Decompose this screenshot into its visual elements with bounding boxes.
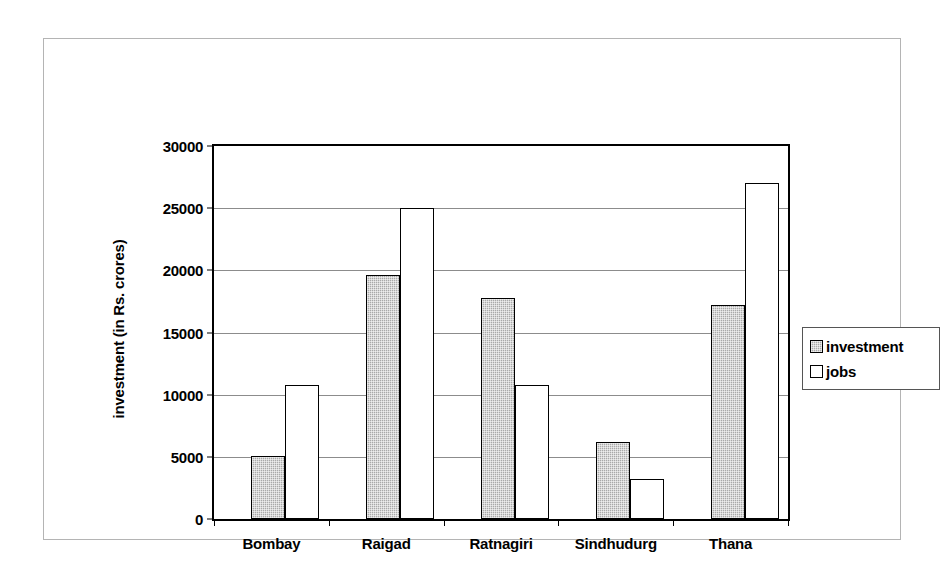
y-tick-label: 25000 xyxy=(163,200,203,217)
x-category-label-bombay: Bombay xyxy=(242,535,300,552)
y-tick-mark xyxy=(207,208,214,209)
bar-group xyxy=(558,146,673,519)
legend-label: jobs xyxy=(826,363,856,380)
legend-label: investment xyxy=(826,338,903,355)
bar-thana-jobs[interactable] xyxy=(745,183,779,519)
x-tick-mark xyxy=(214,519,215,526)
bar-raigad-investment[interactable] xyxy=(366,275,400,519)
x-tick-mark xyxy=(558,519,559,526)
y-tick-mark xyxy=(207,270,214,271)
x-category-label-raigad: Raigad xyxy=(362,535,411,552)
y-tick-mark xyxy=(207,394,214,395)
x-tick-mark xyxy=(788,519,789,526)
chart-outer-frame: investment (in Rs. crores) 3000025000200… xyxy=(43,38,901,540)
bar-group xyxy=(214,146,329,519)
x-tick-mark xyxy=(444,519,445,526)
bar-bombay-investment[interactable] xyxy=(251,456,285,519)
bar-ratnagiri-jobs[interactable] xyxy=(515,385,549,519)
x-category-label-thana: Thana xyxy=(709,535,752,552)
bar-ratnagiri-investment[interactable] xyxy=(481,298,515,519)
plot-area: 300002500020000150001000050000 BombayRai… xyxy=(212,144,790,521)
bar-group xyxy=(673,146,788,519)
y-tick-mark xyxy=(207,332,214,333)
y-tick-mark xyxy=(207,519,214,520)
white-square-icon xyxy=(810,365,823,378)
bar-sindhudurg-investment[interactable] xyxy=(596,442,630,519)
bar-group xyxy=(444,146,559,519)
x-category-label-ratnagiri: Ratnagiri xyxy=(469,535,532,552)
x-tick-mark xyxy=(673,519,674,526)
y-tick-label: 20000 xyxy=(163,262,203,279)
y-tick-label: 15000 xyxy=(163,324,203,341)
bar-bombay-jobs[interactable] xyxy=(285,385,319,519)
bar-thana-investment[interactable] xyxy=(711,305,745,519)
legend-item-jobs[interactable]: jobs xyxy=(810,359,939,384)
y-tick-label: 5000 xyxy=(171,448,203,465)
y-tick-label: 10000 xyxy=(163,386,203,403)
y-tick-mark xyxy=(207,146,214,147)
y-tick-label: 30000 xyxy=(163,138,203,155)
legend-item-investment[interactable]: investment xyxy=(810,334,939,359)
bar-sindhudurg-jobs[interactable] xyxy=(630,479,664,519)
y-tick-label: 0 xyxy=(195,511,203,528)
bar-series-layer xyxy=(214,146,788,519)
bar-raigad-jobs[interactable] xyxy=(400,208,434,519)
y-axis-title: investment (in Rs. crores) xyxy=(106,159,132,499)
x-tick-mark xyxy=(329,519,330,526)
chart-legend: investmentjobs xyxy=(802,327,940,390)
y-tick-mark xyxy=(207,456,214,457)
gray-hatched-square-icon xyxy=(810,340,823,353)
bar-group xyxy=(329,146,444,519)
x-category-label-sindhudurg: Sindhudurg xyxy=(575,535,657,552)
